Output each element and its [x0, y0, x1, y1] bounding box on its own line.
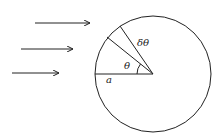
theta-angle-arc	[137, 64, 141, 74]
diagram-canvas	[0, 0, 222, 138]
theta-label: θ	[124, 61, 130, 71]
incident-arrows	[12, 23, 90, 73]
delta-theta-label: δθ	[137, 38, 149, 48]
radius-label: a	[106, 75, 112, 85]
